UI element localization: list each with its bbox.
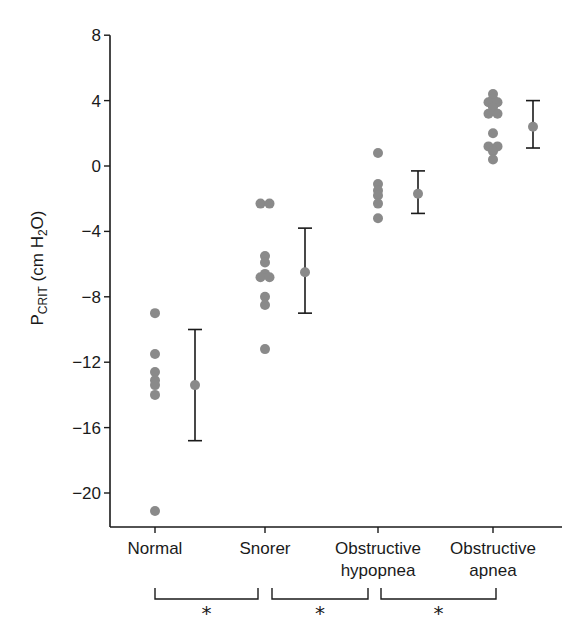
y-axis-label: PCRIT (cm H2O) <box>28 211 50 326</box>
data-point <box>150 380 160 390</box>
data-point <box>150 308 160 318</box>
data-point <box>484 109 494 119</box>
data-point <box>260 257 270 267</box>
data-point <box>150 349 160 359</box>
data-point <box>256 272 266 282</box>
y-axis-title: PCRIT (cm H2O) <box>28 211 50 326</box>
data-point <box>373 213 383 223</box>
mean-point <box>190 380 200 390</box>
x-category-label: Obstructive <box>335 539 421 558</box>
x-category-label: Snorer <box>239 539 290 558</box>
data-point <box>256 199 266 209</box>
data-point <box>260 344 270 354</box>
data-point <box>150 390 160 400</box>
y-tick-label: 8 <box>92 26 101 45</box>
pcrit-scatter-chart: 840−4−8−12−16−20 PCRIT (cm H2O) NormalSn… <box>0 0 583 637</box>
data-point <box>488 154 498 164</box>
x-axis-categories: NormalSnorerObstructivehypopneaObstructi… <box>128 527 536 580</box>
y-tick-label: 0 <box>92 157 101 176</box>
significance-bracket <box>272 588 368 599</box>
y-axis-ticks: 840−4−8−12−16−20 <box>72 26 110 503</box>
x-category-label: Normal <box>128 539 183 558</box>
y-tick-label: −20 <box>72 484 101 503</box>
x-category-label: Obstructive <box>450 539 536 558</box>
y-tick-label: −8 <box>82 288 101 307</box>
data-point <box>260 300 270 310</box>
mean-point <box>300 267 310 277</box>
data-point <box>265 199 275 209</box>
data-points <box>150 89 503 516</box>
mean-point <box>413 189 423 199</box>
y-tick-label: −4 <box>82 222 101 241</box>
y-tick-label: −16 <box>72 419 101 438</box>
data-point <box>493 109 503 119</box>
significance-star: * <box>434 601 444 625</box>
significance-star: * <box>202 601 212 625</box>
significance-bracket <box>155 588 258 599</box>
data-point <box>373 199 383 209</box>
y-tick-label: −12 <box>72 353 101 372</box>
significance-bracket <box>381 588 496 599</box>
data-point <box>373 148 383 158</box>
x-category-label: apnea <box>469 561 517 580</box>
significance-brackets: *** <box>155 588 496 625</box>
data-point <box>265 272 275 282</box>
data-point <box>150 506 160 516</box>
mean-point <box>528 122 538 132</box>
y-tick-label: 4 <box>92 92 101 111</box>
x-category-label: hypopnea <box>341 561 416 580</box>
significance-star: * <box>315 601 325 625</box>
error-bars <box>188 101 540 441</box>
data-point <box>488 128 498 138</box>
